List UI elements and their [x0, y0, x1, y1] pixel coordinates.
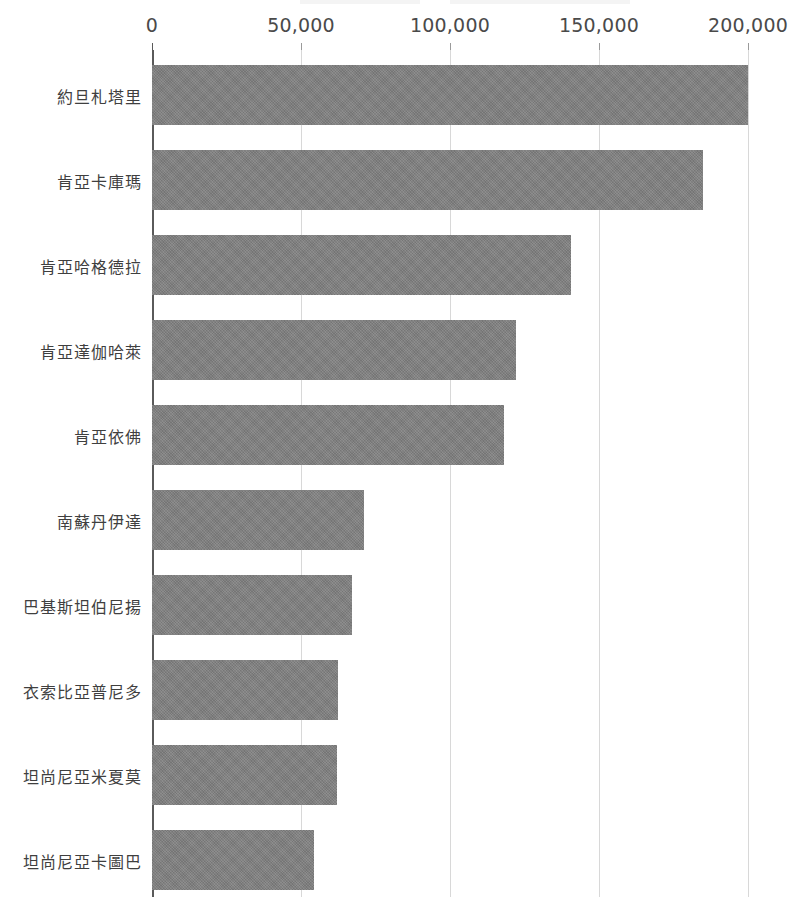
- scan-artifact: [450, 0, 630, 4]
- x-tick-label: 200,000: [708, 14, 788, 36]
- scan-artifact: [300, 0, 420, 4]
- x-axis-tick-labels: 050,000100,000150,000200,000: [0, 14, 806, 44]
- bar: [152, 405, 504, 465]
- category-label: 肯亞卡庫瑪: [0, 169, 142, 193]
- plot-area: [152, 50, 748, 897]
- category-label: 衣索比亞普尼多: [0, 679, 142, 703]
- category-label: 南蘇丹伊達: [0, 509, 142, 533]
- bar: [152, 65, 748, 125]
- category-label: 肯亞哈格德拉: [0, 254, 142, 278]
- bar: [152, 575, 352, 635]
- x-tick-label: 0: [146, 14, 158, 36]
- bar: [152, 660, 338, 720]
- bar: [152, 830, 314, 890]
- category-label: 坦尚尼亞卡圖巴: [0, 849, 142, 873]
- category-label: 巴基斯坦伯尼揚: [0, 594, 142, 618]
- x-tick-label: 100,000: [410, 14, 490, 36]
- bar-chart: 050,000100,000150,000200,000 約旦札塔里肯亞卡庫瑪肯…: [0, 0, 806, 917]
- category-label: 坦尚尼亞米夏莫: [0, 764, 142, 788]
- bar: [152, 320, 516, 380]
- bar: [152, 490, 364, 550]
- gridline-200000: [748, 50, 749, 897]
- category-label: 約旦札塔里: [0, 84, 142, 108]
- category-label: 肯亞達伽哈萊: [0, 339, 142, 363]
- bar: [152, 150, 703, 210]
- x-tick-label: 150,000: [559, 14, 639, 36]
- bar: [152, 745, 337, 805]
- bar: [152, 235, 571, 295]
- category-label: 肯亞依佛: [0, 424, 142, 448]
- x-tick-label: 50,000: [267, 14, 335, 36]
